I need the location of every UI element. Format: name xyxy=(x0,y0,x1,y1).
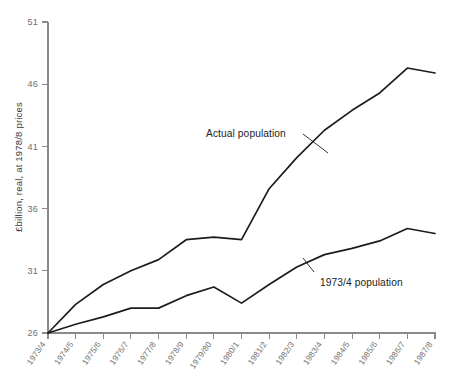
y-tick-label: 26 xyxy=(27,328,38,338)
annotation-actual-population: Actual population xyxy=(206,128,286,139)
x-tick-label: 1973/4 xyxy=(25,340,48,367)
series-line-actual-population xyxy=(48,68,435,333)
y-axis-label: £billion, real, at 1978/8 prices xyxy=(13,102,24,232)
y-axis-label-text: £billion, real, at 1978/8 prices xyxy=(13,102,24,232)
leader-line-actual-population xyxy=(303,134,328,153)
x-tick-label: 1976/7 xyxy=(108,340,131,367)
x-tick-label: 1974/5 xyxy=(53,340,76,367)
x-tick-label: 1983/4 xyxy=(302,340,325,367)
x-tick-label: 1979/80 xyxy=(188,340,213,371)
line-chart-canvas: £billion, real, at 1978/8 prices Actual … xyxy=(0,0,453,384)
x-tick-label: 1982/3 xyxy=(274,340,297,367)
y-axis-tick-labels: 263136414651 xyxy=(27,17,38,338)
x-axis-ticks xyxy=(48,333,435,339)
y-tick-label: 46 xyxy=(27,79,38,89)
x-axis-tick-labels: 1973/41974/51975/61976/71977/81978/91979… xyxy=(25,340,435,371)
x-tick-label: 1987/8 xyxy=(412,340,435,367)
y-tick-label: 36 xyxy=(27,204,38,214)
y-axis-ticks xyxy=(42,22,48,333)
x-tick-label: 1981/2 xyxy=(246,340,269,367)
x-tick-label: 1977/8 xyxy=(136,340,159,367)
x-tick-label: 1984/5 xyxy=(329,340,352,367)
annotation-1973-4-population: 1973/4 population xyxy=(320,277,403,288)
chart-figure: £billion, real, at 1978/8 prices Actual … xyxy=(0,0,453,384)
x-tick-label: 1978/9 xyxy=(163,340,186,367)
x-tick-label: 1975/6 xyxy=(80,340,103,367)
y-tick-label: 41 xyxy=(27,142,38,152)
x-tick-label: 1980/1 xyxy=(219,340,242,367)
y-tick-label: 31 xyxy=(27,266,38,276)
x-tick-label: 1985/6 xyxy=(357,340,380,367)
x-tick-label: 1986/7 xyxy=(385,340,408,367)
y-tick-label: 51 xyxy=(27,17,38,27)
